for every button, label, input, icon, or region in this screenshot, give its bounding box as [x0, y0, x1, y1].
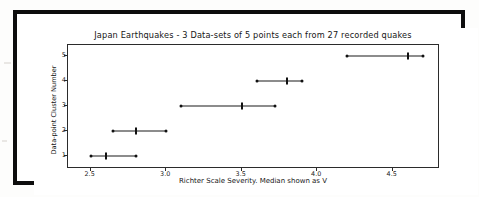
cluster-range-line	[181, 106, 275, 107]
data-point-marker	[165, 129, 168, 132]
y-tick-label: 4	[56, 76, 66, 84]
median-marker	[135, 127, 137, 134]
data-point-marker	[180, 105, 183, 108]
data-point-marker	[273, 105, 276, 108]
scan-artifact	[4, 62, 11, 64]
cluster-range-line	[91, 155, 136, 156]
x-tick-label: 3.5	[236, 170, 246, 178]
plot-area	[67, 44, 439, 168]
y-tick-label: 5	[56, 51, 66, 59]
data-point-marker	[89, 154, 92, 157]
cluster-range-line	[113, 130, 166, 131]
data-point-marker	[301, 80, 304, 83]
figure-frame: Japan Earthquakes - 3 Data-sets of 5 poi…	[13, 10, 465, 185]
median-marker	[105, 152, 107, 159]
data-point-marker	[346, 55, 349, 58]
scanned-page-background: Japan Earthquakes - 3 Data-sets of 5 poi…	[0, 0, 479, 197]
median-marker	[407, 53, 409, 60]
chart-title: Japan Earthquakes - 3 Data-sets of 5 poi…	[67, 30, 439, 40]
median-marker	[286, 78, 288, 85]
chart-figure: Japan Earthquakes - 3 Data-sets of 5 poi…	[34, 28, 478, 195]
x-tick-label: 3.0	[160, 170, 170, 178]
y-tick-label: 3	[56, 101, 66, 109]
y-tick-label: 2	[56, 126, 66, 134]
data-point-marker	[134, 154, 137, 157]
median-marker	[241, 103, 243, 110]
data-point-marker	[112, 129, 115, 132]
scan-artifact	[2, 140, 7, 142]
x-axis-label: Richter Scale Severity. Median shown as …	[67, 177, 439, 185]
data-point-marker	[421, 55, 424, 58]
y-tick-label: 1	[56, 151, 66, 159]
data-point-marker	[255, 80, 258, 83]
cluster-range-line	[257, 81, 302, 82]
cluster-range-line	[347, 56, 423, 57]
x-tick-label: 4.5	[387, 170, 397, 178]
x-tick-label: 2.5	[85, 170, 95, 178]
x-tick-label: 4.0	[311, 170, 321, 178]
